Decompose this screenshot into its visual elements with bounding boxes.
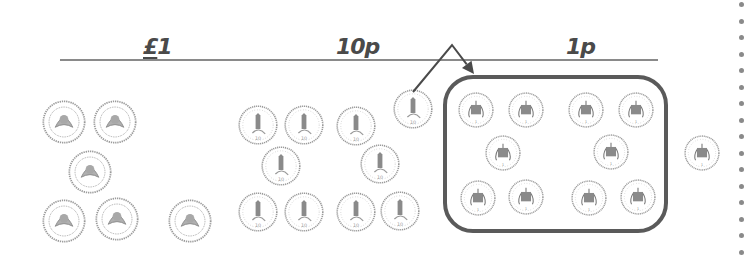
- margin-dot: [739, 167, 744, 172]
- heading-rule: [60, 59, 658, 61]
- pound-coin: [42, 199, 86, 243]
- margin-dot: [739, 101, 744, 106]
- margin-dot: [739, 250, 744, 255]
- margin-dot: [739, 2, 744, 7]
- ten-pence-coin: 10: [360, 144, 400, 184]
- ten-pence-coin: 10: [238, 192, 278, 232]
- heading-text: 1: [157, 34, 171, 59]
- heading-one-penny: 1p: [566, 36, 595, 58]
- margin-dot: [739, 233, 744, 238]
- margin-dot: [739, 200, 744, 205]
- ten-pence-coin: 10: [238, 105, 278, 145]
- one-penny-coin-outside: 1: [684, 135, 720, 171]
- heading-symbol: £: [143, 34, 157, 59]
- pound-coin: [168, 199, 212, 243]
- svg-text:10: 10: [377, 175, 383, 180]
- margin-dot: [739, 151, 744, 156]
- margin-dot: [739, 134, 744, 139]
- ten-pence-coin: 10: [380, 191, 420, 231]
- margin-dot: [739, 35, 744, 40]
- svg-text:10: 10: [255, 136, 261, 141]
- pound-coin: [42, 100, 86, 144]
- svg-text:10: 10: [278, 177, 284, 182]
- margin-dot: [739, 217, 744, 222]
- ten-pence-coin: 10: [261, 146, 301, 186]
- svg-text:10: 10: [353, 137, 359, 142]
- margin-dot: [739, 184, 744, 189]
- margin-dot: [739, 68, 744, 73]
- margin-dot: [739, 52, 744, 57]
- ten-pence-coin: 10: [284, 105, 324, 145]
- svg-text:10: 10: [410, 120, 416, 125]
- ten-pence-coin: 10: [284, 192, 324, 232]
- svg-text:10: 10: [353, 223, 359, 228]
- ten-pence-coin: 10: [393, 89, 433, 129]
- heading-text: 1p: [566, 34, 595, 59]
- svg-text:10: 10: [301, 136, 307, 141]
- margin-dot: [739, 85, 744, 90]
- heading-text: 10p: [336, 34, 379, 59]
- heading-pound: £1: [143, 36, 172, 58]
- pound-coin: [95, 197, 139, 241]
- ten-pence-coin: 10: [336, 192, 376, 232]
- svg-text:10: 10: [255, 223, 261, 228]
- pound-coin: [93, 100, 137, 144]
- pound-coin: [68, 150, 112, 194]
- one-penny-group-box: [443, 75, 668, 233]
- heading-ten-pence: 10p: [336, 36, 379, 58]
- coin-diagram: £110p1p 1010101010101010101011111111111: [0, 0, 750, 262]
- margin-dot: [739, 19, 744, 24]
- svg-text:10: 10: [397, 222, 403, 227]
- svg-text:10: 10: [301, 223, 307, 228]
- ten-pence-coin: 10: [336, 106, 376, 146]
- margin-dot: [739, 118, 744, 123]
